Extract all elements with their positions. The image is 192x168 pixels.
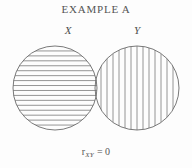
venn-diagram-graphic — [0, 0, 192, 168]
hatch-horizontal-group — [11, 51, 99, 125]
correlation-caption: rXY= 0 — [0, 146, 192, 159]
caption-relation: = 0 — [97, 146, 110, 157]
caption-subscript: XY — [85, 151, 94, 159]
circle-outline-x — [13, 46, 97, 130]
figure-container: EXAMPLE A X Y rXY= 0 — [0, 0, 192, 168]
hatch-vertical-group — [101, 44, 173, 132]
